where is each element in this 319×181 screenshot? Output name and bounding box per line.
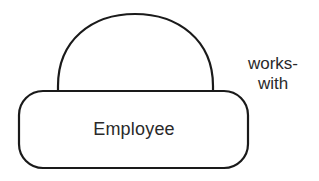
relationship-label-works-with: works- with (240, 54, 306, 94)
relationship-label-line-1: works- (240, 54, 306, 74)
entity-label-employee: Employee (19, 91, 249, 168)
relationship-arc-works-with[interactable] (58, 14, 213, 93)
relationship-label-line-2: with (240, 74, 306, 94)
